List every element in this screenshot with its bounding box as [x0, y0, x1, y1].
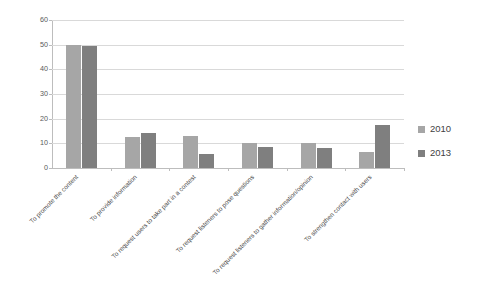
- bar-2013-1[interactable]: [141, 133, 156, 168]
- bar-2010-0[interactable]: [66, 45, 81, 168]
- legend-item-2010[interactable]: 2010: [418, 124, 476, 134]
- bar-2010-2[interactable]: [183, 136, 198, 168]
- bar-2013-5[interactable]: [375, 125, 390, 168]
- bar-2013-4[interactable]: [317, 148, 332, 168]
- bar-2013-2[interactable]: [199, 154, 214, 168]
- x-axis-label: To request listeners to pose questions: [72, 174, 256, 299]
- bar-2010-5[interactable]: [359, 152, 374, 168]
- x-tick-mark: [228, 168, 229, 171]
- y-tick-label: 50: [6, 41, 48, 48]
- x-tick-mark: [111, 168, 112, 171]
- y-tick-mark: [49, 168, 52, 169]
- bar-2013-3[interactable]: [258, 147, 273, 168]
- legend-label-2010: 2010: [430, 124, 451, 134]
- y-tick-label: 40: [6, 66, 48, 73]
- y-tick-label: 20: [6, 115, 48, 122]
- x-tick-mark: [404, 168, 405, 171]
- bar-2010-3[interactable]: [242, 143, 257, 168]
- legend: 2010 2013: [418, 124, 476, 172]
- legend-swatch-2013: [418, 150, 425, 157]
- x-tick-mark: [287, 168, 288, 171]
- y-axis-ticks: 0102030405060: [0, 0, 48, 299]
- bar-chart: 0102030405060 To promote the contentTo p…: [0, 0, 478, 299]
- y-tick-label: 30: [6, 90, 48, 97]
- bar-2013-0[interactable]: [82, 46, 97, 168]
- y-tick-label: 60: [6, 16, 48, 23]
- legend-swatch-2010: [418, 126, 425, 133]
- x-tick-mark: [345, 168, 346, 171]
- legend-label-2013: 2013: [430, 148, 451, 158]
- x-tick-mark: [169, 168, 170, 171]
- bar-2010-1[interactable]: [125, 137, 140, 168]
- y-tick-label: 0: [6, 164, 48, 171]
- x-axis-label: To provide information: [38, 174, 139, 275]
- bar-2010-4[interactable]: [301, 143, 316, 168]
- y-tick-label: 10: [6, 140, 48, 147]
- legend-item-2013[interactable]: 2013: [418, 148, 476, 158]
- plot-area: [52, 20, 404, 168]
